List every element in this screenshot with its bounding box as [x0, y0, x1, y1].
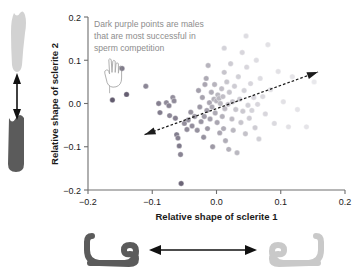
scatter-point [252, 125, 257, 130]
scatter-point [220, 114, 225, 119]
horizontal-double-arrow-icon [149, 245, 257, 255]
scatter-point [201, 135, 206, 140]
y-tick-label-3: −0.1 [63, 142, 81, 152]
scatter-point [143, 84, 148, 89]
scatter-point [219, 86, 224, 91]
scatter-point [110, 97, 115, 102]
scatter-point [249, 108, 254, 113]
scatter-point [223, 138, 228, 143]
scatter-point [222, 45, 227, 50]
left-sclerite-panel [8, 11, 26, 172]
scatter-point [290, 74, 295, 79]
scatter-point [200, 95, 205, 100]
scatter-point [207, 116, 212, 121]
scatter-point [217, 130, 222, 135]
scatter-point [295, 107, 300, 112]
scatter-point [229, 116, 234, 121]
scatter-point [195, 128, 200, 133]
trendline-arrowhead-left [145, 128, 157, 135]
scatter-point [213, 110, 218, 115]
scatter-point [233, 107, 238, 112]
scatter-point [188, 109, 193, 114]
scatter-point [281, 99, 286, 104]
annotation-line-3: sperm competition [94, 43, 164, 53]
scatter-point [214, 120, 219, 125]
annotation-line-2: that are most successful in [94, 31, 196, 41]
scatter-point [202, 82, 207, 87]
scatter-point [272, 121, 277, 126]
scatter-point [248, 81, 253, 86]
scatter-point [156, 101, 161, 106]
scatter-point [230, 99, 235, 104]
x-tick-group: −0.2 −0.1 0.0 0.1 0.2 [79, 190, 351, 207]
sclerite-1-dark-hook-icon [87, 236, 136, 264]
scatter-point [243, 131, 248, 136]
scatter-point [240, 109, 245, 114]
scatter-point [218, 101, 223, 106]
scatter-point [198, 119, 203, 124]
scatter-point [166, 103, 171, 108]
trendline-arrowhead-right [306, 72, 318, 79]
scatter-point [209, 104, 214, 109]
scatter-point [222, 70, 227, 75]
scatter-point [157, 110, 162, 115]
scatter-point [247, 116, 252, 121]
scatter-point [304, 124, 309, 129]
scatter-point [311, 79, 316, 84]
scatter-point [189, 123, 194, 128]
scatter-point [175, 135, 180, 140]
scatter-point [204, 76, 209, 81]
bottom-sclerite-panel [87, 236, 321, 264]
scatter-point [184, 127, 189, 132]
scatter-point [167, 113, 172, 118]
scatter-point [205, 63, 210, 68]
y-axis-title: Relative shape of sclerite 2 [49, 43, 60, 165]
sclerite-2-light-elongated-icon [11, 11, 26, 72]
scatter-point [275, 69, 280, 74]
scatter-point [224, 79, 229, 84]
hand-pointing-down-icon [105, 59, 122, 93]
scatter-point [243, 33, 248, 38]
vertical-double-arrow-icon [13, 73, 21, 120]
scatter-point [244, 64, 249, 69]
annotation-text-block: Dark purple points are males that are mo… [94, 19, 204, 53]
annotation-line-1: Dark purple points are males [94, 19, 204, 29]
scatter-point [202, 114, 207, 119]
scatter-point [124, 92, 129, 97]
scatter-point [260, 94, 265, 99]
scatter-point [209, 90, 214, 95]
scatter-point [177, 143, 182, 148]
scatter-point [238, 120, 243, 125]
scatter-point [178, 152, 183, 157]
sclerite-2-dark-short-icon [8, 115, 24, 172]
scatter-point [171, 98, 176, 103]
scatter-point [255, 102, 260, 107]
scatter-point [232, 84, 237, 89]
scatter-point [265, 42, 270, 47]
scatter-point [220, 94, 225, 99]
x-tick-label-1: −0.1 [143, 197, 161, 207]
scatter-point [228, 61, 233, 66]
scatter-point [205, 126, 210, 131]
scatter-point [286, 124, 291, 129]
x-tick-label-2: 0.0 [210, 197, 223, 207]
scatter-point [226, 147, 231, 152]
scatter-point [192, 114, 197, 119]
scatter-point [210, 144, 215, 149]
y-tick-label-4: −0.2 [63, 186, 81, 196]
scatter-point [240, 50, 245, 55]
scatter-point [256, 136, 261, 141]
y-tick-label-0: 0.2 [68, 13, 81, 23]
sclerite-shape-scatter-figure: Relative shape of sclerite 2 0.2 0.1 0.0… [0, 0, 354, 271]
scatter-point [257, 76, 262, 81]
scatter-point [178, 181, 183, 186]
scatter-point [254, 58, 259, 63]
scatter-point [234, 150, 239, 155]
x-tick-label-4: 0.2 [339, 197, 352, 207]
scatter-point [173, 116, 178, 121]
scatter-point [231, 128, 236, 133]
scatter-point [221, 126, 226, 131]
scatter-points-layer [110, 33, 317, 186]
scatter-point [196, 88, 201, 93]
scatter-point [236, 74, 241, 79]
